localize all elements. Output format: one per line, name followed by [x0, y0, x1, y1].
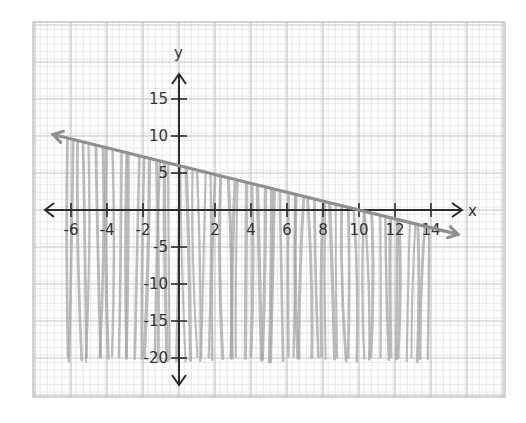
x-tick-label: 10: [349, 221, 368, 239]
x-tick-label: 6: [282, 221, 292, 239]
x-tick-label: -6: [64, 221, 79, 239]
x-tick-label: 8: [318, 221, 328, 239]
y-tick-label: -5: [153, 238, 168, 256]
y-axis-label: y: [174, 44, 183, 62]
x-tick-label: 12: [385, 221, 404, 239]
y-tick-label: 10: [149, 127, 168, 145]
y-tick-label: 15: [149, 90, 168, 108]
x-tick-label: 2: [210, 221, 220, 239]
y-tick-label: -15: [144, 312, 169, 330]
y-tick-label: 5: [158, 164, 168, 182]
x-axis-label: x: [468, 202, 477, 220]
x-tick-label: -4: [100, 221, 115, 239]
x-tick-label: -2: [136, 221, 151, 239]
y-tick-label: -20: [144, 349, 169, 367]
inequality-graph: -6-4-22468101214 15105-5-10-15-20 x y: [0, 0, 526, 423]
x-tick-label: 4: [246, 221, 256, 239]
y-tick-label: -10: [144, 275, 169, 293]
